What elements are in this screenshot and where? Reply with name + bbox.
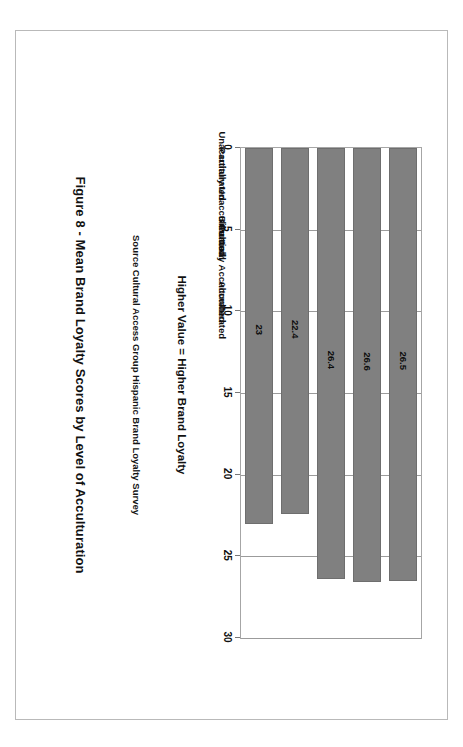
- bar: [245, 148, 273, 524]
- bar-value-label: 26.5: [389, 351, 417, 370]
- document-page-frame: 26.526.626.422.423 051015202530 Unaccult…: [15, 30, 448, 720]
- plot-area: 26.526.626.422.423: [240, 147, 422, 639]
- axis-title: Higher Value = Higher Brand Loyalty: [176, 75, 188, 675]
- bar-value-label: 26.6: [353, 352, 381, 371]
- bar-value-label: 23: [245, 325, 273, 336]
- bar-value-label: 22.4: [281, 320, 309, 339]
- gridline: [241, 638, 421, 639]
- category-axis: UnacculturatedPartially UnacculturatedBi…: [198, 75, 234, 675]
- category-axis-label: Acculturated: [217, 281, 228, 339]
- figure-caption: Figure 8 - Mean Brand Loyalty Scores by …: [73, 75, 88, 675]
- bar-value-label: 26.4: [317, 351, 345, 370]
- source-note: Source Cultural Access Group Hispanic Br…: [131, 75, 142, 675]
- rotated-figure-stage: 26.526.626.422.423 051015202530 Unaccult…: [34, 75, 430, 675]
- plot-assembly: 26.526.626.422.423 051015202530 Unaccult…: [198, 75, 430, 675]
